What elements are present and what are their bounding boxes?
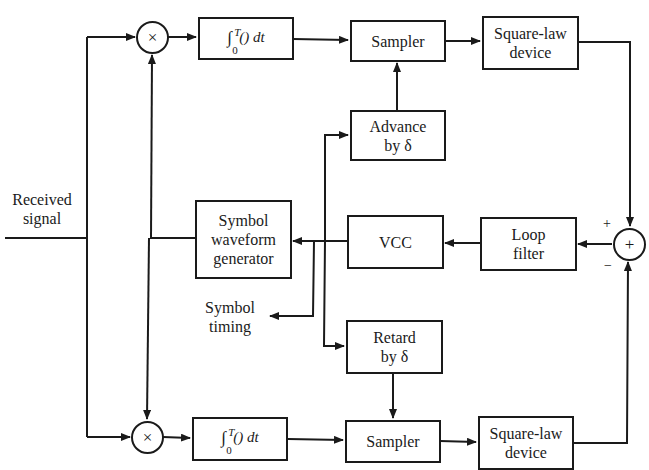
- lower-limit: 0: [226, 441, 232, 460]
- multiply-icon: ×: [148, 28, 158, 48]
- summing-junction: +: [613, 228, 646, 261]
- retard-block: Retard by δ: [346, 320, 443, 374]
- loop-filter: Loop filter: [480, 217, 577, 271]
- symbol-timing-label: Symbol timing: [195, 298, 265, 336]
- bottom-sampler: Sampler: [345, 420, 441, 463]
- integrand: () dt: [233, 429, 258, 445]
- integral-expression: ∫ T 0 () dt: [221, 426, 258, 452]
- bottom-square-law-device: Square-law device: [478, 416, 574, 470]
- bottom-integrator: ∫ T 0 () dt: [192, 417, 288, 461]
- integrand: () dt: [239, 29, 264, 45]
- received-signal-label: Received signal: [2, 190, 82, 228]
- plus-sign-label: +: [603, 216, 611, 232]
- upper-limit: T: [228, 423, 234, 442]
- integral-expression: ∫ T 0 () dt: [227, 26, 264, 52]
- integral-limits: ∫ T 0: [227, 26, 239, 52]
- top-square-law-device: Square-law device: [482, 16, 579, 70]
- plus-icon: +: [625, 235, 635, 255]
- symbol-waveform-generator: Symbol waveform generator: [195, 200, 292, 279]
- integral-sign: ∫: [221, 428, 226, 447]
- lower-limit: 0: [232, 41, 238, 60]
- top-sampler: Sampler: [350, 20, 446, 62]
- top-integrator: ∫ T 0 () dt: [198, 17, 294, 60]
- multiply-icon: ×: [143, 428, 153, 448]
- top-multiplier: ×: [136, 21, 169, 54]
- advance-block: Advance by δ: [350, 110, 446, 161]
- integral-sign: ∫: [227, 28, 232, 47]
- integral-limits: ∫ T 0: [221, 426, 233, 452]
- bottom-multiplier: ×: [131, 421, 164, 454]
- minus-sign-label: −: [604, 258, 612, 274]
- vcc-block: VCC: [347, 215, 444, 269]
- upper-limit: T: [234, 23, 240, 42]
